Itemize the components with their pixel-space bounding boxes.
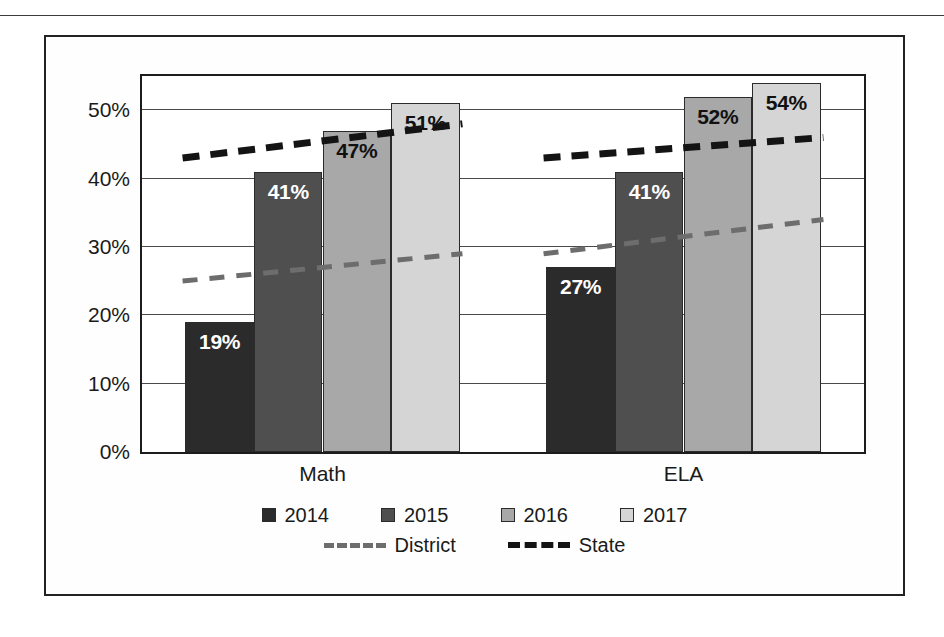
chart-legend: 2014201520162017 DistrictState [44, 500, 905, 560]
legend-swatch-icon [620, 508, 634, 522]
legend-item-state: State [508, 534, 626, 557]
bar-2014-ela: 27% [546, 267, 615, 452]
legend-row-years: 2014201520162017 [44, 500, 905, 530]
bar-2015-ela: 41% [615, 172, 684, 452]
legend-swatch-icon [262, 508, 276, 522]
legend-label: District [395, 534, 456, 557]
bar-2017-math: 51% [391, 103, 460, 452]
bar-value-label: 54% [753, 91, 820, 115]
legend-dash-icon [508, 542, 570, 548]
bar-2015-math: 41% [254, 172, 323, 452]
bar-value-label: 41% [616, 180, 683, 204]
chart-plot-area: 0%10%20%30%40%50%19%41%47%51%Math27%41%5… [140, 74, 866, 454]
bar-value-label: 52% [685, 105, 752, 129]
legend-swatch-icon [381, 508, 395, 522]
bar-value-label: 19% [186, 330, 253, 354]
bar-2017-ela: 54% [752, 83, 821, 452]
legend-item-2016: 2016 [501, 504, 569, 527]
legend-swatch-icon [501, 508, 515, 522]
y-axis-tick-label: 20% [88, 303, 130, 327]
category-label-ela: ELA [664, 462, 704, 486]
legend-item-2015: 2015 [381, 504, 449, 527]
bar-value-label: 27% [547, 275, 614, 299]
y-axis-tick-label: 50% [88, 98, 130, 122]
y-axis-tick-label: 0% [100, 440, 130, 464]
legend-label: 2017 [643, 504, 688, 527]
page-top-rule [0, 15, 944, 16]
legend-item-2017: 2017 [620, 504, 688, 527]
y-axis-tick-label: 30% [88, 235, 130, 259]
bar-value-label: 47% [324, 139, 391, 163]
legend-dash-icon [324, 543, 386, 548]
bar-2016-math: 47% [323, 131, 392, 452]
legend-label: State [579, 534, 626, 557]
bar-value-label: 41% [255, 180, 322, 204]
legend-item-district: District [324, 534, 456, 557]
y-axis-tick-label: 10% [88, 372, 130, 396]
plot-inner: 0%10%20%30%40%50%19%41%47%51%Math27%41%5… [142, 76, 864, 452]
category-label-math: Math [299, 462, 346, 486]
bar-2016-ela: 52% [684, 97, 753, 452]
bar-2014-math: 19% [185, 322, 254, 452]
legend-item-2014: 2014 [262, 504, 330, 527]
legend-row-lines: DistrictState [44, 530, 905, 560]
legend-label: 2014 [285, 504, 330, 527]
bar-value-label: 51% [392, 111, 459, 135]
legend-label: 2016 [524, 504, 569, 527]
legend-label: 2015 [404, 504, 449, 527]
y-axis-tick-label: 40% [88, 167, 130, 191]
